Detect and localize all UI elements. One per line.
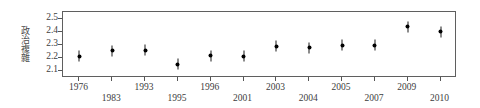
data-point-marker — [176, 62, 180, 66]
data-point — [273, 41, 280, 52]
x-axis-tick-mark — [144, 77, 145, 81]
y-axis-tick-label: 2.5 — [36, 13, 58, 23]
y-axis-tick-label: 2.3 — [36, 39, 58, 49]
x-axis-tick-label: 1995 — [167, 93, 186, 103]
x-axis-tick-label: 2004 — [299, 93, 318, 103]
data-point-marker — [307, 46, 311, 50]
data-point — [437, 26, 444, 37]
x-axis-tick-label: 2007 — [364, 93, 383, 103]
data-point-marker — [373, 43, 377, 47]
plot-area — [62, 11, 456, 77]
data-point-marker — [143, 48, 147, 52]
y-axis-title: 政治複雜 — [18, 13, 32, 75]
x-axis-tick-mark — [275, 77, 276, 81]
data-point — [142, 45, 149, 56]
x-axis-tick-label: 2009 — [397, 82, 416, 92]
chart-container: 政治複雜 2.52.42.32.22.1 1976198319931995199… — [0, 0, 480, 108]
y-axis-tick-labels: 2.52.42.32.22.1 — [36, 0, 58, 108]
x-axis-tick-mark — [210, 77, 211, 81]
x-axis-tick-mark — [243, 77, 244, 81]
data-point-marker — [274, 44, 278, 48]
data-point — [109, 45, 116, 56]
x-axis-tick-label: 1996 — [200, 82, 219, 92]
x-axis-tick-mark — [111, 77, 112, 81]
x-axis-tick-mark — [177, 77, 178, 81]
data-point — [240, 51, 247, 62]
data-point-marker — [209, 54, 213, 58]
x-axis-tick-label: 2001 — [233, 93, 252, 103]
x-axis-tick-mark — [440, 77, 441, 81]
x-axis-tick-label: 1993 — [135, 82, 154, 92]
data-point-marker — [406, 25, 410, 29]
data-points-layer — [63, 12, 455, 76]
x-axis-tick-mark — [407, 77, 408, 81]
x-axis-tick-labels: 1976198319931995199620012003200420052007… — [62, 82, 456, 108]
x-axis-tick-label: 2005 — [332, 82, 351, 92]
data-point — [207, 50, 214, 61]
data-point — [306, 42, 313, 53]
x-axis-tick-mark — [341, 77, 342, 81]
y-axis-tick-label: 2.1 — [36, 65, 58, 75]
data-point-marker — [242, 54, 246, 58]
data-point — [174, 59, 181, 70]
data-point — [404, 21, 411, 32]
data-point-marker — [340, 43, 344, 47]
x-axis-tick-label: 2010 — [430, 93, 449, 103]
data-point — [339, 40, 346, 51]
x-axis-tick-label: 1983 — [102, 93, 121, 103]
data-point-marker — [439, 30, 443, 34]
data-point — [76, 51, 83, 62]
x-axis-tick-mark — [308, 77, 309, 81]
x-axis-tick-label: 2003 — [266, 82, 285, 92]
y-axis-tick-label: 2.2 — [36, 52, 58, 62]
x-axis-tick-label: 1976 — [69, 82, 88, 92]
x-axis-tick-mark — [78, 77, 79, 81]
data-point-marker — [110, 49, 114, 53]
x-axis-tick-mark — [374, 77, 375, 81]
data-point — [371, 40, 378, 51]
data-point-marker — [77, 54, 81, 58]
y-axis-tick-label: 2.4 — [36, 26, 58, 36]
